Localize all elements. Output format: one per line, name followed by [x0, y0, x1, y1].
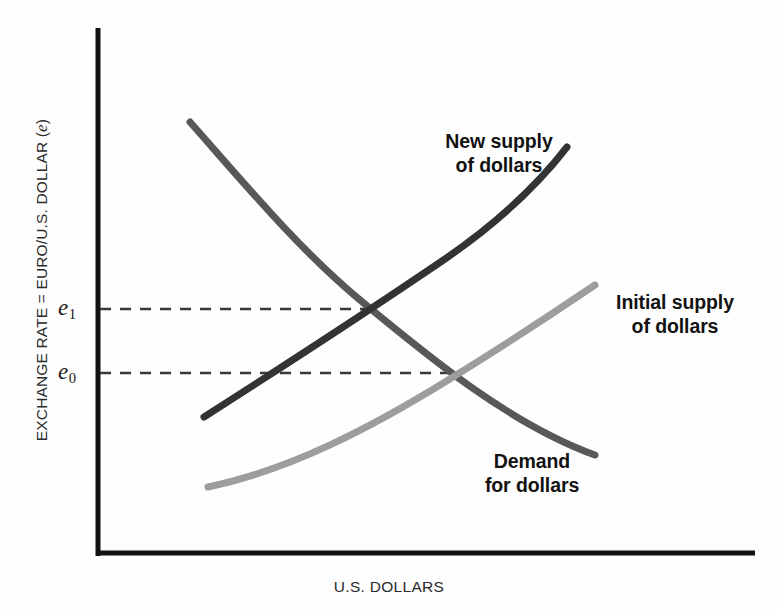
new-supply-curve-label: New supply of dollars: [419, 130, 579, 178]
y-axis-label-close-paren: ): [33, 119, 50, 124]
y-tick-label-e0: e0: [58, 360, 76, 383]
y-axis-label-italic-e: e: [32, 124, 51, 132]
y-tick-label-e1: e1: [58, 296, 76, 319]
y-tick-label-e1-subscript: 1: [68, 306, 76, 322]
y-axis-label-main: EXCHANGE RATE = EURO/U.S. DOLLAR (: [33, 132, 50, 441]
y-tick-label-e0-subscript: 0: [68, 370, 76, 386]
demand-curve-label: Demand for dollars: [452, 450, 612, 498]
x-axis-label: U.S. DOLLARS: [0, 578, 778, 596]
new-supply-of-dollars-curve: [204, 147, 567, 417]
exchange-rate-supply-demand-figure: e1 e0 New supply of dollars Initial supp…: [0, 0, 778, 613]
y-axis-label: EXCHANGE RATE = EURO/U.S. DOLLAR (e): [32, 70, 52, 490]
initial-supply-curve-label: Initial supply of dollars: [585, 291, 765, 339]
